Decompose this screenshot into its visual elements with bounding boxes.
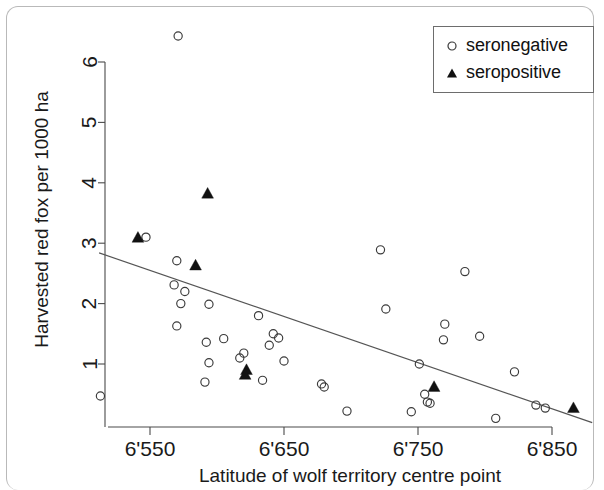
x-axis-tick-label: 6'750 — [393, 437, 444, 460]
data-point-seronegative — [426, 399, 434, 407]
y-axis-tick-label: 6 — [78, 56, 101, 68]
legend-row-seronegative: seronegative — [444, 32, 593, 59]
data-point-seronegative — [142, 233, 150, 241]
data-point-seronegative — [205, 359, 213, 367]
data-point-seronegative — [173, 322, 181, 330]
data-point-seropositive — [202, 187, 214, 198]
legend: seronegative seropositive — [433, 26, 594, 93]
trend-line-group — [99, 253, 592, 423]
data-point-seronegative — [170, 281, 178, 289]
x-axis-title: Latitude of wolf territory centre point — [199, 465, 502, 486]
data-point-seronegative — [376, 246, 384, 254]
y-axis-tick-label: 1 — [78, 358, 101, 370]
x-axis-tick-label: 6'550 — [125, 437, 176, 460]
data-point-seronegative — [407, 408, 415, 416]
data-point-seronegative — [441, 320, 449, 328]
data-point-seronegative — [177, 300, 185, 308]
data-point-seronegative — [174, 32, 182, 40]
data-point-seronegative — [439, 336, 447, 344]
axes-group — [98, 62, 552, 435]
y-axis-tick-label: 2 — [78, 298, 101, 310]
legend-label-seropositive: seropositive — [466, 62, 561, 83]
data-point-seronegative — [173, 257, 181, 265]
data-point-seronegative — [421, 390, 429, 398]
axis-labels-group: 1234566'5506'6506'7506'850Latitude of wo… — [31, 56, 577, 486]
data-point-seropositive — [428, 381, 440, 392]
data-point-seropositive — [190, 259, 202, 270]
data-point-seronegative — [382, 305, 390, 313]
regression-trend-line — [99, 253, 592, 423]
data-point-seropositive — [568, 402, 580, 413]
data-point-seronegative — [201, 378, 209, 386]
data-point-seronegative — [205, 300, 213, 308]
legend-row-seropositive: seropositive — [444, 59, 593, 86]
y-axis-tick-label: 4 — [78, 177, 101, 189]
data-point-seronegative — [343, 407, 351, 415]
x-axis-tick-label: 6'850 — [527, 437, 578, 460]
y-axis-tick-label: 5 — [78, 117, 101, 129]
data-point-seronegative — [96, 392, 104, 400]
data-point-seronegative — [220, 335, 228, 343]
data-point-seronegative — [541, 404, 549, 412]
data-point-seronegative — [181, 287, 189, 295]
data-point-seronegative — [461, 267, 469, 275]
data-point-seronegative — [275, 334, 283, 342]
data-point-seronegative — [254, 312, 262, 320]
x-axis-tick-label: 6'650 — [259, 437, 310, 460]
open-circle-icon — [444, 38, 466, 54]
data-point-seronegative — [510, 368, 518, 376]
data-point-seronegative — [492, 414, 500, 422]
legend-label-seronegative: seronegative — [466, 35, 568, 56]
data-point-seronegative — [202, 338, 210, 346]
data-point-seronegative — [532, 401, 540, 409]
data-point-seronegative — [476, 332, 484, 340]
filled-triangle-icon — [444, 65, 466, 81]
data-point-seronegative — [269, 330, 277, 338]
y-axis-title: Harvested red fox per 1000 ha — [31, 91, 52, 348]
y-axis-tick-label: 3 — [78, 237, 101, 249]
data-point-seronegative — [280, 357, 288, 365]
data-point-seronegative — [258, 376, 266, 384]
data-point-seronegative — [265, 341, 273, 349]
